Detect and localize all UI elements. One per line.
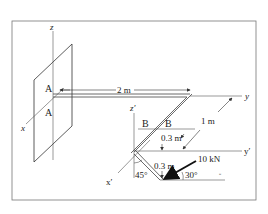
- angle-30-arc: [182, 172, 183, 180]
- point-b-left-label: B: [142, 118, 149, 129]
- z-prime-axis-label: z′: [129, 103, 137, 113]
- y-prime-axis-label: y′: [244, 146, 251, 156]
- dimension-2m-label: 2 m: [117, 85, 131, 95]
- angle-45-label: 45°: [135, 170, 148, 180]
- dimension-1m-line-lower: [183, 130, 200, 149]
- pipe-assembly-diagram: z x A A y 2 m z′ B B y′ x′ 1 m 0.3 m 0.3…: [0, 0, 268, 214]
- point-a-top-label: A: [45, 83, 53, 94]
- pipe-diagonal-b: [131, 97, 187, 153]
- x-axis-label: x: [20, 123, 25, 133]
- dimension-1m-line-upper: [218, 98, 232, 112]
- x-prime-axis-label: x′: [106, 177, 113, 187]
- dimension-03m-upper-label: 0.3 m: [161, 133, 182, 143]
- point-b-right-label: B: [165, 118, 172, 129]
- dimension-03m-lower-label: 0.3 m: [154, 161, 175, 171]
- end-marker: ▫: [219, 171, 221, 177]
- y-axis-label: y: [244, 91, 249, 101]
- dimension-1m-label: 1 m: [201, 116, 215, 126]
- force-label: 10 kN: [198, 154, 221, 164]
- angle-30-label: 30°: [185, 170, 198, 180]
- z-axis-label: z: [49, 22, 54, 32]
- point-a-bottom-label: A: [45, 107, 53, 118]
